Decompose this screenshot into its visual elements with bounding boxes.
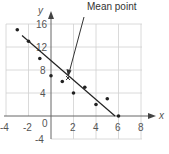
svg-text:8: 8 xyxy=(138,122,144,133)
x-tick-labels: -4 -2 0 2 4 6 8 xyxy=(0,118,144,133)
svg-text:6: 6 xyxy=(115,122,121,133)
x-axis-arrow-icon xyxy=(148,113,156,119)
svg-text:12: 12 xyxy=(36,42,48,53)
svg-text:4: 4 xyxy=(93,122,99,133)
svg-text:0: 0 xyxy=(42,118,48,129)
svg-text:-4: -4 xyxy=(0,122,9,133)
x-axis-label: x xyxy=(158,110,165,121)
svg-text:2: 2 xyxy=(70,122,76,133)
svg-text:8: 8 xyxy=(40,65,46,76)
scatter-chart: x y -4 -2 0 2 4 6 8 16 12 8 4 -4 xyxy=(0,0,169,154)
svg-text:16: 16 xyxy=(36,19,48,30)
y-axis-label: y xyxy=(37,5,44,16)
svg-text:4: 4 xyxy=(40,88,46,99)
svg-text:-4: -4 xyxy=(35,134,44,145)
svg-text:-2: -2 xyxy=(23,122,32,133)
mean-point-annotation: Mean point xyxy=(87,1,137,12)
y-axis-arrow-icon xyxy=(48,11,54,19)
axes xyxy=(4,16,152,139)
